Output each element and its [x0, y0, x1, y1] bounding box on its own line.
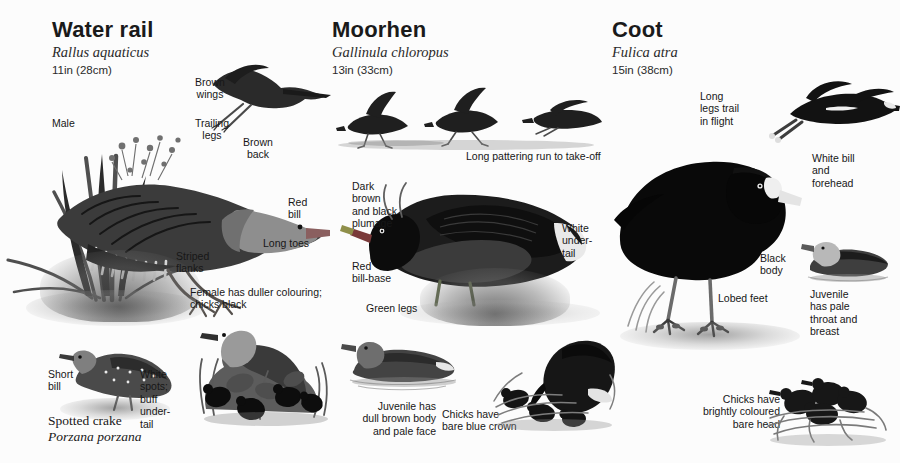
subspecies-spotted-crake: Spotted crake Porzana porzana [48, 413, 141, 445]
label-white-spots: White spots; buff under- tail [140, 368, 186, 430]
label-striped-flanks: Striped flanks [176, 250, 232, 275]
label-pattering-run: Long pattering run to take-off [466, 150, 616, 162]
illustration-coot-flight [756, 78, 900, 148]
illustration-water-rail-female-chicks [196, 305, 346, 425]
illustration-moorhen-takeoff-run [336, 86, 606, 152]
label-white-undertail: White under- tail [562, 222, 610, 259]
species-name-water-rail: Water rail [52, 18, 153, 41]
illustration-moorhen-juvenile [336, 336, 466, 396]
label-red-bill: Red bill [288, 196, 328, 221]
species-heading-water-rail: Water rail Rallus aquaticus 11in (28cm) [52, 18, 153, 77]
ground-shadow-water-rail [26, 290, 206, 326]
label-short-bill: Short bill [48, 368, 94, 393]
species-size-water-rail: 11in (28cm) [52, 64, 153, 77]
subspecies-latin-name: Porzana porzana [48, 429, 141, 445]
species-size-moorhen: 13in (33cm) [332, 64, 449, 77]
species-latin-moorhen: Gallinula chloropus [332, 45, 449, 61]
label-brown-wings: Brown wings [182, 76, 238, 101]
species-name-moorhen: Moorhen [332, 18, 449, 41]
illustration-coot-chicks-nest [766, 372, 890, 448]
illustration-coot-adult [614, 152, 814, 342]
label-white-bill: White bill and forehead [812, 152, 884, 189]
label-coot-juvenile-pale: Juvenile has pale throat and breast [810, 288, 878, 338]
label-moorhen-juvenile: Juvenile has dull brown body and pale fa… [332, 400, 436, 437]
illustration-moorhen-chicks [492, 335, 620, 431]
illustration-coot-juvenile [800, 238, 890, 288]
ground-shadow-coot [620, 322, 800, 350]
label-red-bill-base: Red bill-base [352, 260, 412, 285]
species-latin-water-rail: Rallus aquaticus [52, 45, 153, 61]
label-long-toes: Long toes [263, 237, 333, 249]
label-dark-plumage: Dark brown and black plumage [352, 180, 412, 230]
species-heading-coot: Coot Fulica atra 15in (38cm) [612, 18, 678, 77]
label-legs-trail: Long legs trail in flight [700, 90, 760, 127]
label-lobed-feet: Lobed feet [718, 292, 798, 304]
species-name-coot: Coot [612, 18, 678, 41]
field-guide-page: Water rail Rallus aquaticus 11in (28cm) … [0, 0, 900, 463]
subspecies-common-name: Spotted crake [48, 413, 122, 428]
label-green-legs: Green legs [366, 302, 436, 314]
label-coot-chicks-head: Chicks have brightly coloured bare head [652, 393, 780, 430]
species-latin-coot: Fulica atra [612, 45, 678, 61]
species-size-coot: 15in (38cm) [612, 64, 678, 77]
species-heading-moorhen: Moorhen Gallinula chloropus 13in (33cm) [332, 18, 449, 77]
